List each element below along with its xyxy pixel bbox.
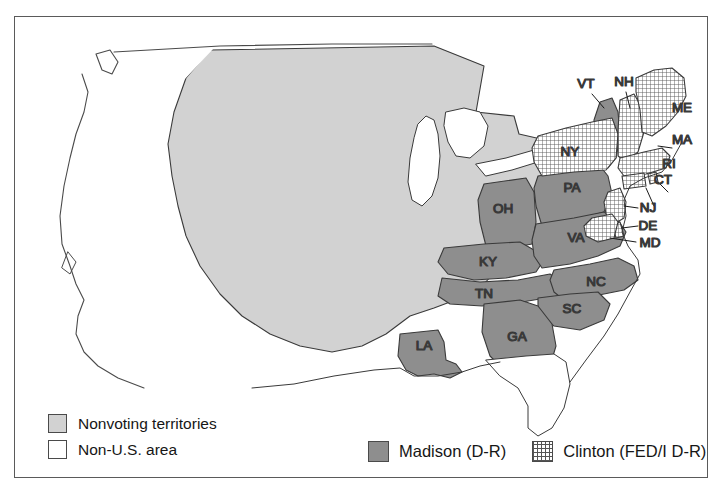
- state-label-ma: MA: [672, 132, 692, 147]
- state-label-ny: NY: [561, 144, 580, 159]
- legend-item-nonvoting-territories: Nonvoting territories: [48, 414, 298, 433]
- state-label-ky: KY: [479, 254, 497, 269]
- state-label-ri: RI: [662, 156, 676, 171]
- legend-label-clinton: Clinton (FED/I D-R): [563, 442, 706, 461]
- state-label-va: VA: [567, 230, 584, 245]
- legend-right-group: Madison (D-R) Clinton (FED/I D-R): [368, 441, 706, 462]
- state-label-tn: TN: [475, 286, 493, 301]
- state-label-oh: OH: [493, 201, 513, 216]
- legend-label-madison: Madison (D-R): [399, 442, 506, 461]
- state-label-sc: SC: [563, 301, 582, 316]
- legend-swatch-madison: [368, 441, 389, 462]
- state-label-ct: CT: [654, 172, 672, 187]
- state-label-de: DE: [639, 218, 658, 233]
- state-label-la: LA: [416, 338, 433, 353]
- state-label-ga: GA: [507, 329, 527, 344]
- legend-label-non-us-area: Non-U.S. area: [78, 441, 177, 459]
- legend-swatch-nonvoting-territories: [48, 414, 67, 433]
- state-label-nc: NC: [586, 274, 606, 289]
- legend-item-non-us-area: Non-U.S. area: [48, 440, 298, 459]
- legend-left-group: Nonvoting territories Non-U.S. area: [48, 414, 298, 466]
- legend-swatch-clinton: [532, 441, 553, 462]
- state-label-nj: NJ: [640, 200, 657, 215]
- state-label-md: MD: [640, 235, 661, 250]
- state-label-nh: NH: [614, 74, 634, 89]
- election-map-figure: 1812: [0, 0, 726, 494]
- legend-label-nonvoting-territories: Nonvoting territories: [78, 415, 217, 433]
- map-graphic: OH PA KY VA TN NC SC GA LA NY VT NH ME M…: [14, 16, 708, 478]
- state-ct: [622, 173, 646, 189]
- legend-swatch-non-us-area: [48, 440, 67, 459]
- state-label-vt: VT: [577, 76, 594, 91]
- state-label-pa: PA: [563, 180, 580, 195]
- state-label-me: ME: [672, 100, 692, 115]
